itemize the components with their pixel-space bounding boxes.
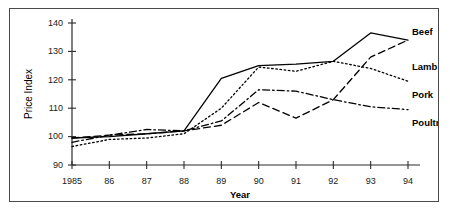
x-axis-tick-label: 87 xyxy=(142,176,152,186)
x-axis-tick-label: 92 xyxy=(328,176,338,186)
y-axis-tick-label: 90 xyxy=(53,160,63,170)
x-axis-tick-label: 86 xyxy=(104,176,114,186)
series-line-pork xyxy=(72,61,408,146)
y-axis-tick-label: 120 xyxy=(48,75,63,85)
x-axis-title: Year xyxy=(230,189,250,200)
series-line-beef xyxy=(72,33,408,138)
y-axis-tick-label: 140 xyxy=(48,18,63,28)
y-axis-tick-label: 110 xyxy=(49,103,63,113)
series-label-pork: Pork xyxy=(412,89,434,100)
x-axis-tick-label: 91 xyxy=(291,176,301,186)
x-axis-tick-label: 89 xyxy=(216,176,226,186)
line-chart: 901001101201301401985868788899091929394Y… xyxy=(10,9,438,201)
y-axis-title: Price Index xyxy=(23,69,34,119)
x-axis-tick-label: 90 xyxy=(254,176,264,186)
y-axis-tick-label: 100 xyxy=(48,131,63,141)
series-line-lamb xyxy=(72,40,408,138)
x-axis-tick-label: 88 xyxy=(179,176,189,186)
x-axis-tick-label: 1985 xyxy=(62,176,82,186)
x-axis-tick-label: 94 xyxy=(403,176,413,186)
series-label-lamb: Lamb xyxy=(412,61,438,72)
series-label-poultry: Poultry xyxy=(412,117,438,128)
x-axis-tick-label: 93 xyxy=(366,176,376,186)
series-label-beef: Beef xyxy=(412,26,433,37)
chart-frame: 901001101201301401985868788899091929394Y… xyxy=(9,8,439,202)
y-axis-tick-label: 130 xyxy=(48,46,63,56)
